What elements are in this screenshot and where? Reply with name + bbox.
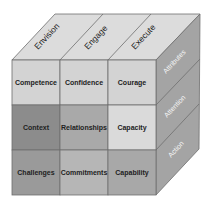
front-face: Competence Confidence Courage Context Re… (12, 60, 156, 195)
cell-label-commitments: Commitments (61, 169, 108, 176)
cell-label-competence: Competence (15, 79, 57, 87)
cell-label-relationships: Relationships (61, 124, 107, 132)
cube-diagram: Envision Engage Execute Attributes Atten… (0, 0, 209, 208)
cell-label-courage: Courage (118, 79, 147, 87)
cell-label-capability: Capability (115, 169, 149, 177)
cell-label-capacity: Capacity (117, 124, 146, 132)
cell-label-context: Context (23, 124, 50, 131)
cell-label-confidence: Confidence (65, 79, 103, 86)
cell-label-challenges: Challenges (17, 169, 54, 177)
